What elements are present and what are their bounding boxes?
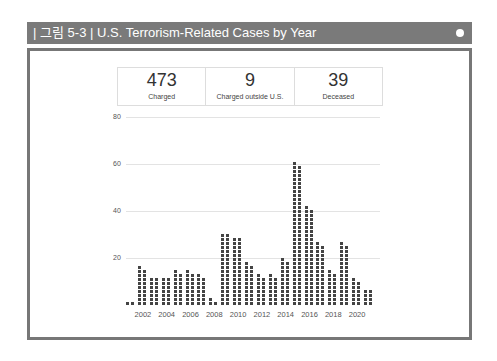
bar-2003 <box>150 278 160 305</box>
stat-value: 473 <box>118 70 205 90</box>
x-tick-label: 2012 <box>254 310 271 319</box>
y-tick-label: 80 <box>113 113 121 120</box>
gridline <box>126 164 380 165</box>
bar-2008 <box>209 298 219 305</box>
bar-2020 <box>352 278 362 305</box>
stats-panel: 473 Charged 9 Charged outside U.S. 39 De… <box>117 67 383 106</box>
stat-value: 39 <box>295 70 382 90</box>
x-tick-label: 2014 <box>277 310 294 319</box>
x-tick-label: 2016 <box>301 310 318 319</box>
bar-2010 <box>233 238 243 305</box>
figure-header: | 그림 5-3 | U.S. Terrorism-Related Cases … <box>27 22 472 44</box>
x-tick-label: 2018 <box>325 310 342 319</box>
dot-icon <box>456 29 464 37</box>
y-tick-label: 60 <box>113 160 121 167</box>
x-tick-label: 2020 <box>349 310 366 319</box>
gridline <box>126 211 380 212</box>
bar-2015 <box>293 162 303 305</box>
y-tick-label: 20 <box>113 254 121 261</box>
gridline <box>126 117 380 118</box>
y-tick-label: 40 <box>113 207 121 214</box>
bar-2019 <box>340 242 350 305</box>
stat-label: Deceased <box>295 93 382 100</box>
bar-2011 <box>245 262 255 305</box>
stat-deceased: 39 Deceased <box>295 68 382 105</box>
bar-2006 <box>186 270 196 305</box>
stat-label: Charged <box>118 93 205 100</box>
bar-2005 <box>174 270 184 305</box>
bar-2013 <box>269 274 279 305</box>
bar-2007 <box>197 274 207 305</box>
stat-charged: 473 Charged <box>118 68 206 105</box>
bar-2002 <box>138 266 148 305</box>
bar-2014 <box>281 258 291 305</box>
bar-2021 <box>364 290 374 305</box>
x-tick-label: 2002 <box>135 310 152 319</box>
figure-label: | 그림 5-3 | <box>33 25 93 40</box>
x-tick-label: 2010 <box>230 310 247 319</box>
bar-2004 <box>162 278 172 305</box>
stat-value: 9 <box>206 70 293 90</box>
x-tick-label: 2008 <box>206 310 223 319</box>
bar-2001 <box>126 302 136 305</box>
bar-2012 <box>257 274 267 305</box>
figure-title: U.S. Terrorism-Related Cases by Year <box>97 25 316 40</box>
bar-2009 <box>221 234 231 305</box>
stat-charged-outside: 9 Charged outside U.S. <box>206 68 294 105</box>
bar-2017 <box>316 242 326 305</box>
x-tick-label: 2006 <box>182 310 199 319</box>
bar-2018 <box>328 270 338 305</box>
stat-label: Charged outside U.S. <box>206 93 293 100</box>
bar-2016 <box>305 206 315 305</box>
x-tick-label: 2004 <box>158 310 175 319</box>
